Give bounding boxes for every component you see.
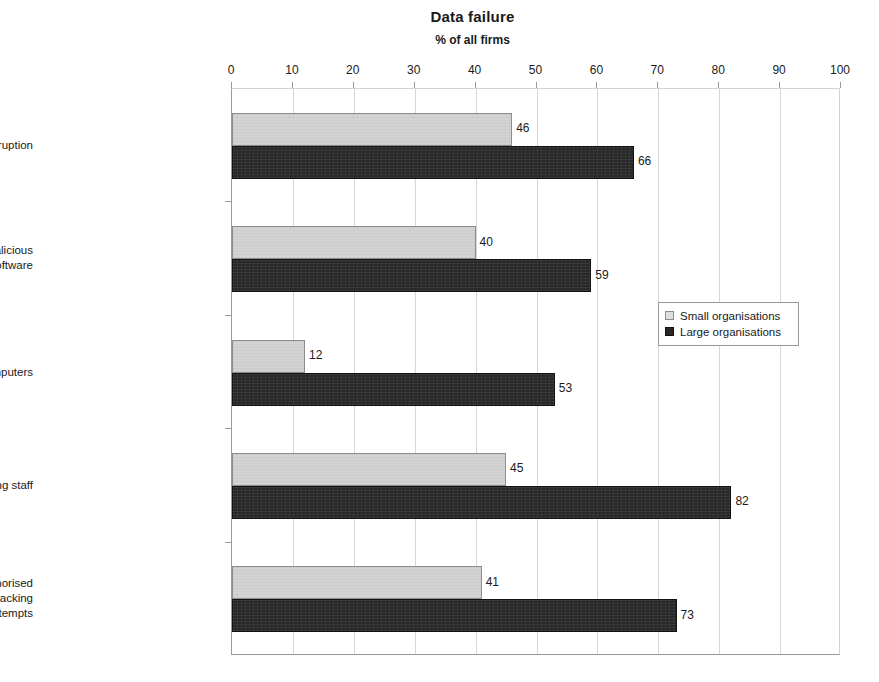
bar-value-label: 40 <box>480 235 493 249</box>
x-axis-tick-label: 50 <box>529 63 542 77</box>
bar-value-label: 45 <box>510 461 523 475</box>
bar-large <box>232 373 555 406</box>
bar-large <box>232 486 731 519</box>
x-axis-tick-mark <box>840 82 841 88</box>
category-label: Theft or fraud involving computers <box>0 364 33 379</box>
gridline <box>658 89 659 654</box>
legend-item[interactable]: Large organisations <box>665 324 791 339</box>
bar-value-label: 46 <box>516 121 529 135</box>
bar-small <box>232 453 506 486</box>
bar-value-label: 73 <box>681 608 694 622</box>
category-label-line: outsider, including hacking <box>0 591 33 606</box>
chart-legend: Small organisationsLarge organisations <box>658 302 799 346</box>
category-label-line: software <box>0 258 33 273</box>
bar-value-label: 12 <box>309 348 322 362</box>
legend-label: Small organisations <box>680 310 780 322</box>
bar-small <box>232 226 476 259</box>
chart-title: Data failure <box>0 8 879 25</box>
x-axis-tick-label: 40 <box>468 63 481 77</box>
x-axis-tick-label: 30 <box>407 63 420 77</box>
x-axis-tick-label: 10 <box>285 63 298 77</box>
category-label-line: Infection by viruses or malicious <box>0 243 33 258</box>
x-axis-tick-label: 60 <box>590 63 603 77</box>
bar-small <box>232 566 482 599</box>
x-axis-tick-label: 90 <box>772 63 785 77</box>
bar-small <box>232 113 512 146</box>
gridline <box>719 89 720 654</box>
bar-value-label: 53 <box>559 381 572 395</box>
category-label-line: attempts <box>0 606 33 621</box>
bar-large <box>232 259 591 292</box>
category-label: Other incidents involving staff <box>0 477 33 492</box>
legend-swatch-small-icon <box>665 311 674 320</box>
bar-small <box>232 340 305 373</box>
bar-value-label: 82 <box>735 494 748 508</box>
plot-area <box>231 88 840 655</box>
x-axis-tick-label: 100 <box>830 63 850 77</box>
chart-subtitle: % of all firms <box>0 33 879 47</box>
bar-large <box>232 146 634 179</box>
x-axis-tick-label: 80 <box>712 63 725 77</box>
category-label-line: Attacks by an unauthorised <box>0 576 33 591</box>
category-label-line: System failure or data corruption <box>0 137 33 152</box>
bar-value-label: 66 <box>638 154 651 168</box>
category-label: Infection by viruses or malicioussoftwar… <box>0 243 33 273</box>
category-label-line: Other incidents involving staff <box>0 477 33 492</box>
bar-large <box>232 599 677 632</box>
legend-label: Large organisations <box>680 326 781 338</box>
category-label: Attacks by an unauthorisedoutsider, incl… <box>0 576 33 621</box>
category-label: System failure or data corruption <box>0 137 33 152</box>
legend-item[interactable]: Small organisations <box>665 308 791 323</box>
legend-swatch-large-icon <box>665 327 674 336</box>
x-axis-tick-label: 0 <box>228 63 235 77</box>
gridline <box>780 89 781 654</box>
bar-value-label: 41 <box>486 575 499 589</box>
x-axis-tick-label: 70 <box>651 63 664 77</box>
x-axis-tick-label: 20 <box>346 63 359 77</box>
category-label-line: Theft or fraud involving computers <box>0 364 33 379</box>
bar-value-label: 59 <box>595 268 608 282</box>
